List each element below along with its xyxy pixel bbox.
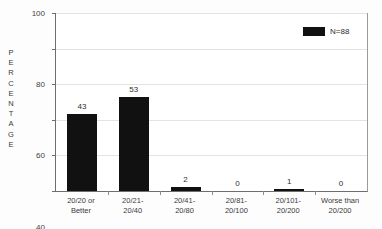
y-axis-tick: 60: [52, 84, 56, 85]
x-axis-category-line: 20/81-: [225, 196, 248, 206]
x-axis-category-line: 20/41-: [174, 196, 195, 206]
y-axis-tick-label: 80: [36, 80, 45, 89]
y-axis-title-letter: E: [4, 140, 18, 150]
chart-figure: PERCENTAGE 02040608010043532010 N=88 20/…: [0, 0, 382, 229]
gridline: [56, 155, 367, 156]
y-axis-tick-label: 100: [32, 9, 45, 18]
y-axis-tick-label: 60: [36, 151, 45, 160]
y-axis-tick-label: 40: [36, 222, 45, 229]
legend: N=88: [303, 27, 349, 36]
x-axis-category-line: 20/40: [122, 206, 143, 216]
gridline: [56, 49, 367, 50]
y-axis-tick: 80: [52, 49, 56, 50]
gridline: [56, 13, 367, 14]
gridline: [56, 84, 367, 85]
plot-inner: 02040608010043532010: [56, 13, 367, 191]
x-axis-category-line: 20/100: [225, 206, 248, 216]
y-axis-title-letter: T: [4, 109, 18, 119]
y-axis-title-letter: P: [4, 48, 18, 58]
x-axis-category-label: 20/41-20/80: [174, 196, 195, 215]
y-axis-tick: 100: [52, 13, 56, 14]
x-axis-tick: [315, 191, 316, 195]
x-axis-category-line: 20/200: [276, 206, 301, 216]
bar-value-label: 2: [171, 175, 201, 184]
bar: [274, 189, 304, 191]
x-axis-category-line: 20/80: [174, 206, 195, 216]
x-axis-category-line: Worse than: [321, 196, 359, 206]
legend-swatch-n88: [303, 27, 325, 36]
bar-value-label: 43: [67, 102, 97, 111]
x-axis-category-line: Better: [67, 206, 95, 216]
x-axis-category-line: 20/21-: [122, 196, 143, 206]
gridline: [56, 120, 367, 121]
y-axis-title-letter: R: [4, 68, 18, 78]
plot-area: 02040608010043532010: [55, 13, 368, 192]
y-axis-title: PERCENTAGE: [4, 48, 18, 150]
bar-value-label: 53: [119, 85, 149, 94]
x-axis-category-line: 20/101-: [276, 196, 301, 206]
x-axis-tick: [160, 191, 161, 195]
y-axis-title-letter: N: [4, 99, 18, 109]
x-axis-category-label: 20/81-20/100: [225, 196, 248, 215]
y-axis-tick: 0: [52, 191, 56, 192]
x-axis-category-label: Worse than20/200: [321, 196, 359, 215]
legend-label-n88: N=88: [330, 27, 349, 36]
y-axis-title-letter: A: [4, 119, 18, 129]
bar: [119, 97, 149, 191]
x-axis-tick: [263, 191, 264, 195]
x-axis-tick: [212, 191, 213, 195]
y-axis-title-letter: E: [4, 89, 18, 99]
bar-value-label: 0: [222, 179, 252, 188]
x-axis-category-label: 20/20 orBetter: [67, 196, 95, 215]
y-axis-title-letter: C: [4, 79, 18, 89]
y-axis-tick: 20: [52, 155, 56, 156]
y-axis-tick: 40: [52, 120, 56, 121]
x-axis-category-label: 20/21-20/40: [122, 196, 143, 215]
bar-value-label: 1: [274, 177, 304, 186]
bar: [171, 187, 201, 191]
y-axis-title-letter: G: [4, 130, 18, 140]
x-axis-category-label: 20/101-20/200: [276, 196, 301, 215]
x-axis-tick: [108, 191, 109, 195]
bar-value-label: 0: [326, 179, 356, 188]
bar: [67, 114, 97, 191]
x-axis-category-line: 20/20 or: [67, 196, 95, 206]
y-axis-title-letter: E: [4, 58, 18, 68]
x-axis-category-line: 20/200: [321, 206, 359, 216]
